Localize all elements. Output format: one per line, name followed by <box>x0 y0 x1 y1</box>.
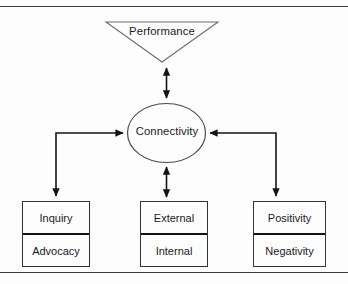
box-label-inquiry: Inquiry <box>23 202 89 233</box>
connector-positivity-connectivity <box>210 133 276 196</box>
connectivity-label: Connectivity <box>126 126 208 137</box>
diagram-page: Performance Connectivity Inquiry Advocac… <box>0 0 348 284</box>
box-label-negativity: Negativity <box>254 235 325 266</box>
box-label-internal: Internal <box>141 235 207 266</box>
connector-inquiry-connectivity <box>56 133 123 196</box>
performance-label: Performance <box>106 26 218 37</box>
box-positivity-negativity: Positivity Negativity <box>253 201 326 267</box>
box-inquiry-advocacy: Inquiry Advocacy <box>22 201 90 267</box>
box-label-positivity: Positivity <box>254 202 325 233</box>
box-external-internal: External Internal <box>140 201 208 267</box>
box-label-advocacy: Advocacy <box>23 235 89 266</box>
box-label-external: External <box>141 202 207 233</box>
